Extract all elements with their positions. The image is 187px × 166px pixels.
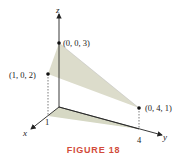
y-axis-label: y: [162, 132, 167, 142]
xy-projection-triangle: [48, 107, 139, 129]
z-axis-label: z: [55, 5, 60, 15]
plane-triangle: [48, 43, 139, 108]
point-label-0-4-1: (0, 4, 1): [145, 103, 172, 113]
y-tick-label: 4: [137, 135, 142, 145]
figure-caption: FIGURE 18: [0, 145, 187, 155]
point-0-0-3: [57, 41, 61, 45]
x-tick-label: 1: [45, 117, 49, 127]
x-axis-label: x: [22, 128, 27, 138]
figure-18: z x y 1 4 (0, 0, 3) (1, 0, 2) (0, 4, 1) …: [0, 0, 187, 166]
3d-plane-diagram: z x y 1 4 (0, 0, 3) (1, 0, 2) (0, 4, 1): [0, 0, 187, 166]
point-label-0-0-3: (0, 0, 3): [63, 38, 90, 48]
point-0-4-1: [137, 106, 141, 110]
point-1-0-2: [46, 72, 50, 76]
point-label-1-0-2: (1, 0, 2): [9, 70, 36, 80]
